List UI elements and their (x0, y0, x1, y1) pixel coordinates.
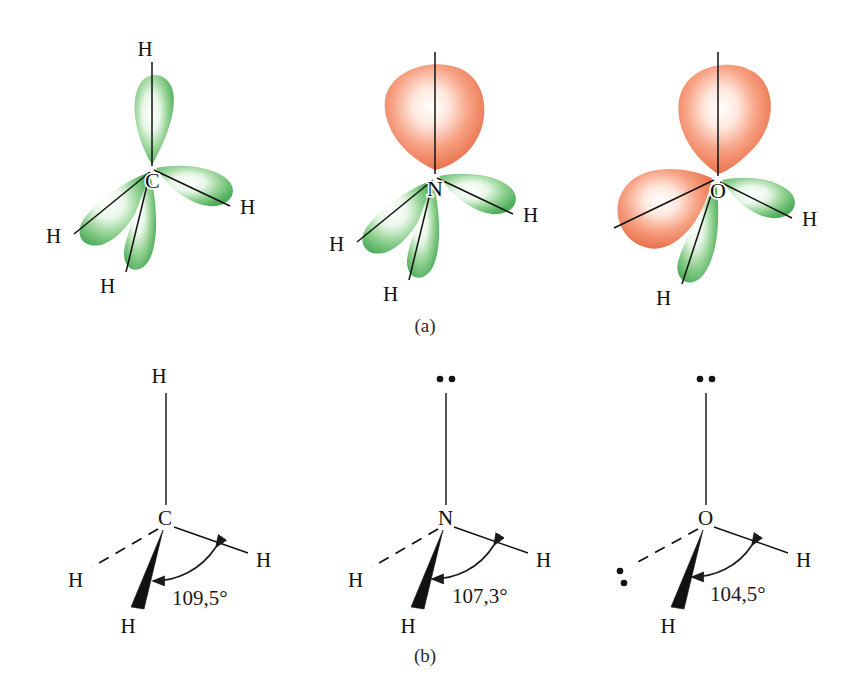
angle-arc (432, 545, 494, 579)
hydrogen-label-down-left: H (656, 286, 671, 310)
hydrogen-label-down-left: H (383, 282, 398, 306)
bond-dashed-left (92, 529, 158, 567)
wedge-substituent-label: H (400, 614, 415, 638)
right-substituent-label: H (536, 548, 551, 572)
orbital-lobe-right (156, 166, 233, 207)
center-atom-label: N (438, 506, 453, 530)
angle-label: 107,3° (452, 584, 508, 608)
orbital-diagram-nitrogen: N H H H (283, 0, 583, 320)
center-atom-label: N (427, 176, 443, 201)
panel-caption-a: (a) (385, 315, 465, 337)
wedge-substituent-label: H (660, 614, 675, 638)
center-atom-label: O (698, 506, 713, 530)
lone-pair-dots-top (437, 376, 456, 383)
panel-caption-b: (b) (385, 645, 465, 667)
right-substituent-label: H (256, 548, 271, 572)
bond-angle-diagram-oxygen: O H H 104,5° (600, 355, 851, 635)
center-atom-label: C (158, 506, 172, 530)
angle-label: 109,5° (172, 586, 228, 610)
bond-dashed-left (372, 529, 438, 567)
orbital-lobe-lone-pair-up (678, 65, 770, 174)
right-substituent-label: H (796, 548, 811, 572)
hydrogen-label-lower-left: H (46, 224, 61, 248)
dashed-substituent-label: H (68, 568, 83, 592)
bond-angle-diagram-nitrogen: N H H H 107,3° (340, 355, 610, 635)
dashed-substituent-label: H (348, 568, 363, 592)
top-substituent-label: H (151, 364, 166, 388)
orbital-lobe-right (439, 174, 516, 214)
orbital-diagram-oxygen: O H H (560, 0, 851, 320)
wedge-substituent-label: H (120, 614, 135, 638)
hydrogen-label-right: H (802, 207, 817, 231)
center-atom-label: C (145, 168, 160, 193)
bond-right (714, 527, 788, 553)
angle-label: 104,5° (710, 582, 766, 606)
orbital-geometry-figure: C H H H H (0, 0, 851, 683)
bond-right (174, 527, 248, 553)
angle-arc (153, 547, 216, 581)
hydrogen-label-up: H (137, 37, 152, 61)
orbital-lobe-right (722, 178, 795, 218)
bond-angle-diagram-carbon: H C H H H 109,5° (60, 355, 330, 635)
bond-dashed-left (636, 529, 698, 563)
hydrogen-label-right: H (523, 203, 538, 227)
hydrogen-label-lower-left: H (329, 232, 344, 256)
hydrogen-label-right: H (240, 195, 255, 219)
orbital-lobe-up (135, 75, 174, 165)
center-atom-label: O (710, 178, 726, 203)
lone-pair-dots-left (617, 568, 628, 587)
hydrogen-label-down-left: H (100, 274, 115, 298)
angle-arc (692, 545, 752, 577)
orbital-diagram-carbon: C H H H H (0, 0, 300, 320)
lone-pair-dots-top (697, 376, 716, 383)
